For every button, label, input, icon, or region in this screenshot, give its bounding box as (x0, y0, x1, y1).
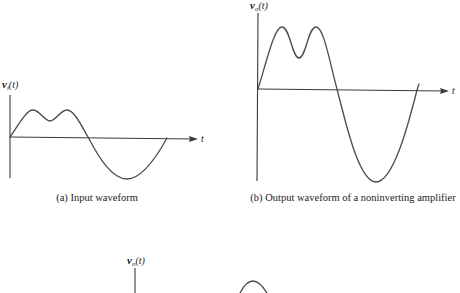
input-waveform-caption: (a) Input waveform (56, 192, 138, 204)
input-waveform-curve (10, 110, 167, 179)
output-x-axis-arrow-icon (440, 88, 449, 94)
input-x-axis-arrow-icon (189, 136, 198, 142)
third-waveform-plot: vo(t) (127, 254, 267, 293)
output-waveform-plot: vo(t) t (b) Output waveform of a noninve… (250, 0, 456, 204)
input-x-axis-label: t (201, 133, 204, 144)
output-x-axis-label: t (452, 85, 455, 96)
input-waveform-plot: vi(t) t (a) Input waveform (2, 78, 204, 204)
output-waveform-caption: (b) Output waveform of a noninverting am… (250, 192, 456, 204)
input-y-axis-label: vi(t) (2, 78, 19, 92)
output-y-axis-label: vo(t) (250, 0, 268, 13)
output-y-axis (257, 13, 258, 181)
waveform-figure: vi(t) t (a) Input waveform vo(t) t (b) O… (0, 0, 460, 293)
third-y-axis-label: vo(t) (127, 254, 145, 268)
output-waveform-curve (258, 27, 419, 182)
third-waveform-curve (240, 281, 267, 293)
